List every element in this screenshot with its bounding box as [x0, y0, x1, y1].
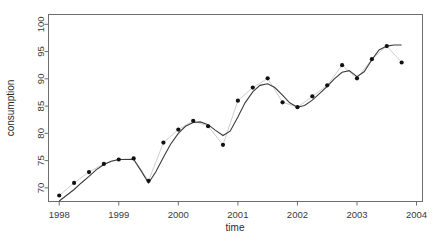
data-point	[385, 44, 389, 48]
data-point	[72, 181, 76, 185]
data-point	[280, 100, 284, 104]
data-point	[236, 99, 240, 103]
y-tick-label: 85	[35, 101, 46, 112]
data-point	[191, 119, 195, 123]
y-tick-label: 80	[35, 128, 46, 139]
x-axis-title: time	[226, 222, 245, 233]
data-point	[132, 156, 136, 160]
chart-container: 707580859095100 199819992000200120022003…	[0, 0, 440, 248]
data-point	[251, 85, 255, 89]
x-tick-label: 1998	[49, 209, 70, 220]
y-axis-title: consumption	[5, 80, 16, 137]
consumption-time-scatter-chart: 707580859095100 199819992000200120022003…	[0, 0, 440, 248]
y-tick-label: 75	[35, 155, 46, 166]
data-point	[400, 60, 404, 64]
x-tick-label: 2004	[406, 209, 427, 220]
x-tick-label: 2001	[227, 209, 248, 220]
x-tick-label: 2003	[346, 209, 367, 220]
data-point	[310, 94, 314, 98]
data-point	[221, 143, 225, 147]
x-tick-label: 2000	[168, 209, 189, 220]
x-tick-label: 1999	[108, 209, 129, 220]
data-point	[340, 63, 344, 67]
data-point	[295, 105, 299, 109]
data-point	[176, 127, 180, 131]
y-tick-label: 70	[35, 183, 46, 194]
data-point	[57, 193, 61, 197]
x-tick-label: 2002	[287, 209, 308, 220]
data-point	[87, 170, 91, 174]
data-point	[355, 76, 359, 80]
data-point	[117, 157, 121, 161]
data-point	[161, 141, 165, 145]
data-point	[206, 124, 210, 128]
y-tick-label: 95	[35, 46, 46, 57]
y-tick-label: 90	[35, 74, 46, 85]
data-point	[102, 162, 106, 166]
data-point	[325, 83, 329, 87]
y-tick-label: 100	[35, 16, 46, 32]
data-point	[370, 57, 374, 61]
data-point	[146, 179, 150, 183]
data-point	[266, 76, 270, 80]
